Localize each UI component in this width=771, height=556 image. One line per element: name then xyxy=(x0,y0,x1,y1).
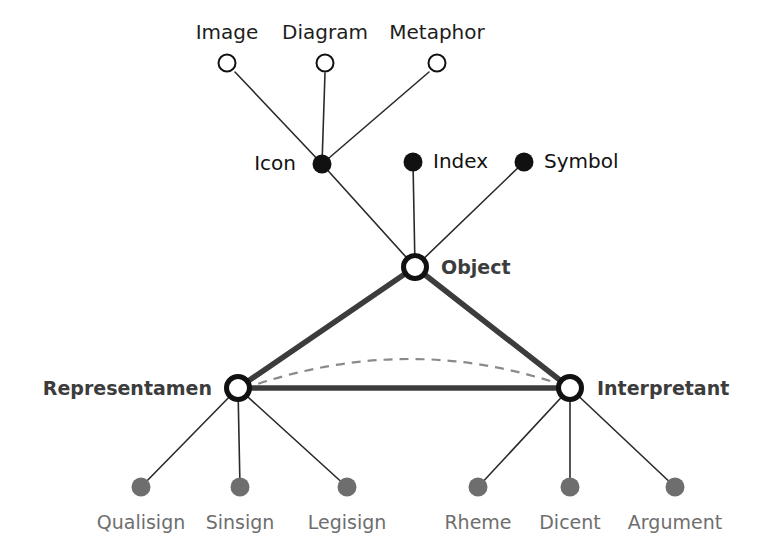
edge-diagram-icon xyxy=(322,73,325,164)
label-qualisign: Qualisign xyxy=(97,511,185,533)
edge-representamen-sinsign xyxy=(238,388,240,487)
node-object[interactable] xyxy=(404,256,427,279)
node-legisign[interactable] xyxy=(338,478,357,497)
node-diagram[interactable] xyxy=(317,55,334,72)
node-symbol[interactable] xyxy=(515,153,534,172)
edge-metaphor-icon xyxy=(322,72,429,164)
label-metaphor: Metaphor xyxy=(389,20,485,44)
edge-semiosis-arc xyxy=(243,359,568,389)
label-sinsign: Sinsign xyxy=(206,511,275,533)
node-representamen[interactable] xyxy=(227,377,250,400)
node-interpretant[interactable] xyxy=(559,377,582,400)
label-symbol: Symbol xyxy=(544,149,619,173)
edge-representamen-qualisign xyxy=(141,388,238,487)
node-metaphor[interactable] xyxy=(429,55,446,72)
label-interpretant: Interpretant xyxy=(597,377,729,399)
label-index: Index xyxy=(433,149,488,173)
node-image[interactable] xyxy=(219,55,236,72)
edge-interpretant-rheme xyxy=(478,388,570,487)
semiotic-diagram-canvas: ImageDiagramMetaphorIconIndexSymbolObjec… xyxy=(0,0,771,556)
node-group xyxy=(132,55,685,497)
label-argument: Argument xyxy=(628,511,722,533)
label-icon: Icon xyxy=(254,151,296,175)
edge-symbol-object xyxy=(415,162,524,267)
edge-icon-object xyxy=(322,164,415,267)
node-dicent[interactable] xyxy=(561,478,580,497)
edge-representamen-legisign xyxy=(238,388,347,487)
node-qualisign[interactable] xyxy=(132,478,151,497)
semiotic-diagram: ImageDiagramMetaphorIconIndexSymbolObjec… xyxy=(0,0,771,556)
label-object: Object xyxy=(441,256,511,278)
thin-edge-group xyxy=(141,72,675,487)
node-index[interactable] xyxy=(404,153,423,172)
label-group: ImageDiagramMetaphorIconIndexSymbolObjec… xyxy=(43,20,730,533)
edge-object-representamen xyxy=(238,267,415,388)
label-dicent: Dicent xyxy=(539,511,601,533)
label-image: Image xyxy=(196,20,259,44)
node-rheme[interactable] xyxy=(469,478,488,497)
edge-interpretant-argument xyxy=(570,388,675,487)
dashed-arc-group xyxy=(243,359,568,389)
node-argument[interactable] xyxy=(666,478,685,497)
edge-index-object xyxy=(413,162,415,267)
label-legisign: Legisign xyxy=(308,511,387,533)
node-sinsign[interactable] xyxy=(231,478,250,497)
triangle-edge-group xyxy=(238,267,570,388)
edge-object-interpretant xyxy=(415,267,570,388)
node-icon[interactable] xyxy=(313,155,332,174)
label-representamen: Representamen xyxy=(43,377,212,399)
label-diagram: Diagram xyxy=(282,20,368,44)
label-rheme: Rheme xyxy=(444,511,511,533)
